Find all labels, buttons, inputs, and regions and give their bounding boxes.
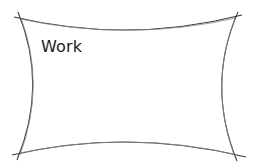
sketch-frame-shape[interactable]: [0, 0, 258, 167]
bottom-edge-inner: [20, 142, 238, 155]
right-edge: [222, 12, 238, 161]
left-edge: [17, 12, 33, 160]
shape-label[interactable]: Work: [41, 37, 82, 57]
diagram-canvas: Work: [0, 0, 258, 167]
top-edge: [14, 15, 242, 30]
